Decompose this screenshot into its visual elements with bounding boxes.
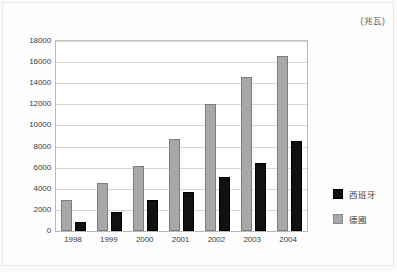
plot-area	[55, 40, 308, 232]
bar-group	[97, 41, 122, 231]
x-axis-tick-label: 1999	[100, 235, 117, 244]
bar-group	[241, 41, 266, 231]
x-axis-tick-label: 2004	[279, 235, 296, 244]
y-axis-tick-label: 0	[47, 226, 51, 235]
bar-spain-1998	[75, 222, 86, 232]
y-axis-tick-label: 8000	[34, 141, 51, 150]
wind-capacity-bar-chart: (兆瓦) 02000400060008000100001200014000160…	[0, 0, 397, 272]
legend-label: 德國	[349, 213, 367, 225]
y-axis-tick-label: 16000	[29, 57, 51, 66]
bar-germany-2004	[277, 56, 288, 231]
y-axis-tick-label: 10000	[29, 120, 51, 129]
bar-germany-1998	[61, 200, 72, 231]
x-axis-tick-label: 2000	[136, 235, 153, 244]
bar-germany-2001	[169, 139, 180, 231]
bar-spain-2001	[183, 192, 194, 231]
bar-spain-2004	[291, 141, 302, 231]
y-axis-tick-label: 12000	[29, 99, 51, 108]
bar-spain-2000	[147, 200, 158, 231]
y-axis-tick-label: 6000	[34, 162, 51, 171]
bar-germany-2002	[205, 104, 216, 231]
y-axis: 0200040006000800010000120001400016000180…	[6, 40, 51, 232]
bar-spain-2002	[219, 177, 230, 231]
bar-group	[169, 41, 194, 231]
bar-group	[277, 41, 302, 231]
unit-label: (兆瓦)	[361, 14, 385, 26]
legend-label: 西班牙	[349, 188, 376, 200]
y-axis-tick-label: 2000	[34, 204, 51, 213]
legend-swatch-icon	[333, 189, 343, 199]
bar-group	[61, 41, 86, 231]
y-axis-tick-label: 4000	[34, 183, 51, 192]
y-axis-tick-label: 14000	[29, 78, 51, 87]
x-axis-tick-label: 1998	[64, 235, 81, 244]
legend-item-spain[interactable]: 西班牙	[333, 188, 393, 200]
x-axis: 1998199920002001200220032004	[55, 235, 308, 249]
legend-swatch-icon	[333, 214, 343, 224]
x-axis-tick-label: 2002	[208, 235, 225, 244]
y-axis-tick-label: 18000	[29, 36, 51, 45]
x-axis-tick-label: 2003	[244, 235, 261, 244]
bar-germany-1999	[97, 183, 108, 231]
bar-group	[133, 41, 158, 231]
bar-germany-2000	[133, 166, 144, 231]
bar-spain-2003	[255, 163, 266, 231]
legend-item-germany[interactable]: 德國	[333, 213, 393, 225]
bar-germany-2003	[241, 77, 252, 231]
legend: 西班牙德國	[333, 188, 393, 238]
x-axis-tick-label: 2001	[172, 235, 189, 244]
bar-spain-1999	[111, 212, 122, 231]
bar-group	[205, 41, 230, 231]
